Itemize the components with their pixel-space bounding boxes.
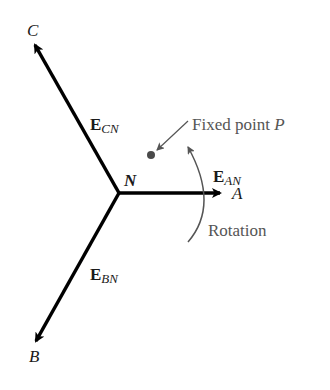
label-b: B: [29, 347, 40, 366]
label-e-cn: ECN: [90, 115, 120, 136]
vector-bn-arrow: [36, 193, 119, 341]
fixed-point-leader: [157, 121, 188, 150]
fixed-point-dot: [147, 151, 155, 159]
label-n: N: [123, 171, 137, 190]
label-e-an: EAN: [213, 167, 242, 188]
phasor-diagram: C A B N ECN EAN EBN Fixed point P Rotati…: [0, 0, 330, 390]
vector-cn-arrow: [35, 45, 119, 193]
label-fixed-point: Fixed point P: [192, 115, 285, 134]
label-c: C: [27, 21, 39, 40]
label-e-bn: EBN: [90, 265, 119, 286]
label-rotation: Rotation: [208, 221, 267, 240]
